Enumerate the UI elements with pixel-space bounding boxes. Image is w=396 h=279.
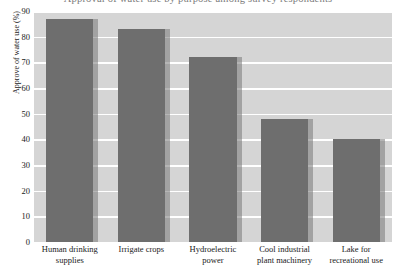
y-axis-tick-labels: 0102030405060708090 [12, 0, 30, 279]
y-axis-tick-90: 90 [22, 7, 31, 16]
bar-chart: Approval of water use by purpose among s… [0, 0, 396, 279]
y-axis-tick-80: 80 [22, 32, 31, 41]
bar[interactable] [46, 19, 93, 242]
y-axis-tick-30: 30 [22, 161, 31, 170]
y-axis-tick-10: 10 [22, 212, 31, 221]
y-axis-tick-70: 70 [22, 58, 31, 67]
bar-slot [320, 11, 392, 242]
x-axis-label-3: Cool industrial plant machinery [249, 244, 321, 265]
plot-area [34, 11, 392, 242]
bar-slot [249, 11, 321, 242]
y-axis-tick-50: 50 [22, 109, 31, 118]
bar[interactable] [189, 57, 236, 242]
x-axis-category-labels: Human drinking suppliesIrrigate cropsHyd… [34, 244, 392, 265]
bar[interactable] [118, 29, 165, 242]
y-axis-tick-40: 40 [22, 135, 31, 144]
bar-slot [177, 11, 249, 242]
chart-title-clipped: Approval of water use by purpose among s… [0, 0, 396, 4]
x-axis-label-2: Hydroelectric power [177, 244, 249, 265]
x-axis-label-4: Lake for recreational use [320, 244, 392, 265]
bar-series [34, 11, 392, 242]
y-axis-tick-60: 60 [22, 84, 31, 93]
x-axis-label-1: Irrigate crops [106, 244, 178, 265]
y-axis-tick-0: 0 [26, 238, 30, 247]
bar-slot [106, 11, 178, 242]
bar[interactable] [333, 139, 380, 242]
bar[interactable] [261, 119, 308, 242]
bar-slot [34, 11, 106, 242]
y-axis-tick-20: 20 [22, 186, 31, 195]
x-axis-label-0: Human drinking supplies [34, 244, 106, 265]
